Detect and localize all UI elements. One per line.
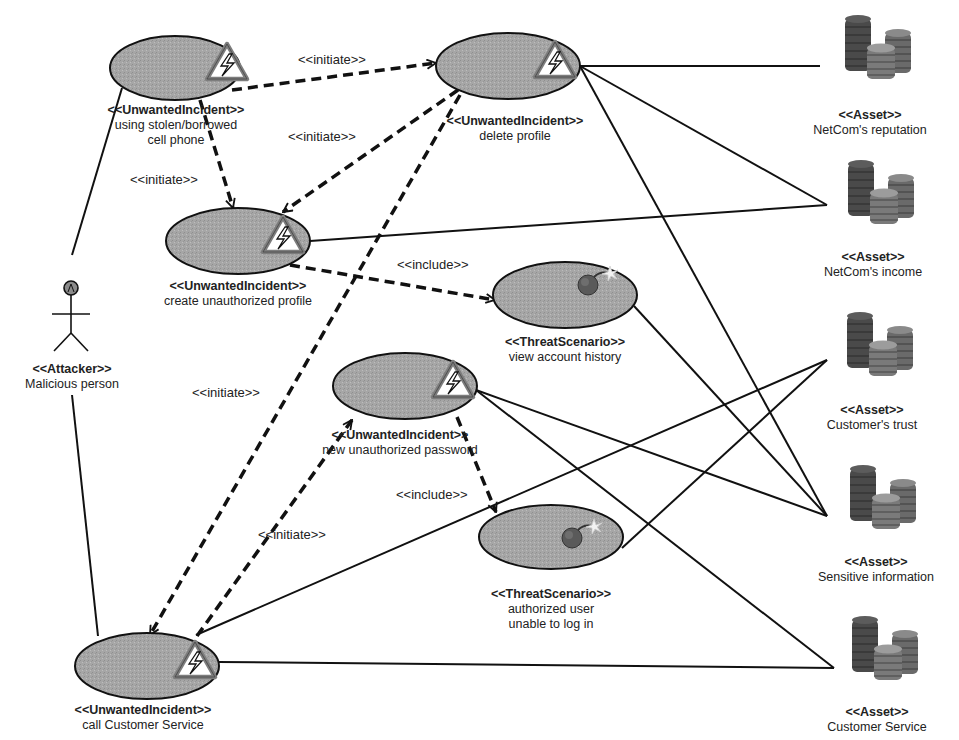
stereotype: <<ThreatScenario>> (491, 587, 611, 602)
asset-name: Sensitive information (818, 570, 934, 585)
coin-stack-icon[interactable] (850, 465, 916, 529)
line-attacker-u5 (72, 395, 98, 636)
stereotype: <<Asset>> (824, 250, 922, 265)
node-name: view account history (505, 350, 625, 365)
node-u5[interactable] (75, 633, 219, 699)
stereotype: <<Asset>> (827, 403, 918, 418)
node-name: delete profile (447, 129, 584, 144)
node-name: new unauthorized password (322, 443, 478, 458)
label-attacker: <<Attacker>> Malicious person (25, 362, 119, 392)
label-a2: <<Asset>> NetCom's income (824, 250, 922, 280)
label-a3: <<Asset>> Customer's trust (827, 403, 918, 433)
coin-stack-icon[interactable] (845, 15, 911, 79)
relation-label-initiate: <<initiate>> (130, 172, 198, 187)
label-a4: <<Asset>> Sensitive information (818, 555, 934, 585)
node-name: authorized user (491, 602, 611, 617)
node-t2[interactable] (479, 505, 623, 569)
node-name: cell phone (108, 133, 245, 148)
node-name: using stolen/borrowed (108, 118, 245, 133)
relation-label-include: <<include>> (397, 257, 469, 272)
label-u4: <<UnwantedIncident>> new unauthorized pa… (322, 428, 478, 458)
label-a1: <<Asset>> NetCom's reputation (813, 108, 927, 138)
stereotype: <<UnwantedIncident>> (164, 279, 312, 294)
label-t2: <<ThreatScenario>> authorized user unabl… (491, 587, 611, 632)
line-u5-a5 (218, 662, 834, 668)
node-name: call Customer Service (75, 718, 212, 733)
arrow-initiate-u2-u3 (283, 90, 458, 212)
attacker-figure[interactable] (52, 281, 90, 351)
asset-name: Customer's trust (827, 418, 918, 433)
stereotype: <<UnwantedIncident>> (75, 703, 212, 718)
asset-name: Customer Service (827, 720, 926, 735)
node-u1[interactable] (110, 36, 247, 100)
stereotype: <<Asset>> (813, 108, 927, 123)
coin-stack-icon[interactable] (847, 312, 913, 376)
stereotype: <<UnwantedIncident>> (108, 103, 245, 118)
asset-name: NetCom's income (824, 265, 922, 280)
stereotype: <<UnwantedIncident>> (447, 114, 584, 129)
asset-name: NetCom's reputation (813, 123, 927, 138)
stereotype: <<UnwantedIncident>> (322, 428, 478, 443)
node-u3[interactable] (166, 208, 310, 274)
label-t1: <<ThreatScenario>> view account history (505, 335, 625, 365)
label-u1: <<UnwantedIncident>> using stolen/borrow… (108, 103, 245, 148)
coin-stack-icon[interactable] (848, 160, 914, 224)
label-u5: <<UnwantedIncident>> call Customer Servi… (75, 703, 212, 733)
node-name: unable to log in (491, 617, 611, 632)
coin-stack-icon[interactable] (852, 616, 918, 680)
relation-label-initiate: <<initiate>> (192, 385, 260, 400)
stereotype: <<Attacker>> (25, 362, 119, 377)
label-u2: <<UnwantedIncident>> delete profile (447, 114, 584, 144)
relation-label-initiate: <<initiate>> (288, 129, 356, 144)
node-u2[interactable] (436, 33, 580, 99)
relation-label-initiate: <<initiate>> (258, 527, 326, 542)
label-u3: <<UnwantedIncident>> create unauthorized… (164, 279, 312, 309)
node-t1[interactable] (493, 262, 637, 328)
stereotype: <<Asset>> (818, 555, 934, 570)
relation-label-initiate: <<initiate>> (298, 52, 366, 67)
node-u4[interactable] (333, 353, 477, 419)
arrow-initiate-u1-u2 (232, 63, 436, 90)
stereotype: <<Asset>> (827, 705, 926, 720)
stereotype: <<ThreatScenario>> (505, 335, 625, 350)
attacker-name: Malicious person (25, 377, 119, 392)
node-name: create unauthorized profile (164, 294, 312, 309)
relation-arrows (150, 63, 496, 636)
relation-label-include: <<include>> (396, 487, 468, 502)
label-a5: <<Asset>> Customer Service (827, 705, 926, 735)
line-t1-a4 (634, 306, 827, 516)
